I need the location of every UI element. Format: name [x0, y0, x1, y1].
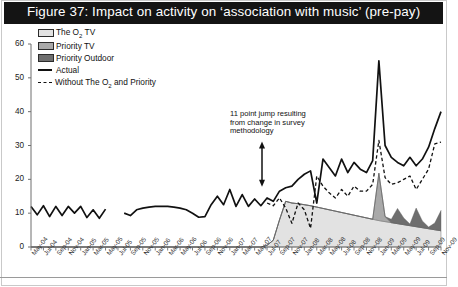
legend-swatch-without-o2-and-priority — [38, 82, 52, 83]
legend-item-priority-outdoor: Priority Outdoor — [38, 52, 156, 64]
y-axis-tick-label: 0 — [8, 242, 24, 251]
y-axis-tick-label: 40 — [8, 107, 24, 116]
figure-footer-rule — [0, 277, 447, 278]
legend-item-o2-tv: The O2 TV — [38, 27, 156, 39]
legend-label-without-o2-and-priority: Without The O2 and Priority — [55, 77, 156, 89]
legend-item-priority-tv: Priority TV — [38, 39, 156, 51]
y-axis-tick-label: 20 — [8, 174, 24, 183]
legend-swatch-priority-outdoor — [38, 54, 54, 62]
chart-annotation-text: 11 point jump resulting from change in s… — [230, 110, 316, 136]
legend-item-without-o2-and-priority: Without The O2 and Priority — [38, 77, 156, 89]
legend-label-priority-tv: Priority TV — [56, 41, 95, 51]
legend-swatch-o2-tv — [38, 29, 54, 37]
legend-swatch-priority-tv — [38, 42, 54, 50]
legend-item-actual: Actual — [38, 64, 156, 76]
legend-label-o2-tv: The O2 TV — [56, 27, 95, 39]
chart-legend: The O2 TV Priority TV Priority Outdoor A… — [38, 27, 156, 89]
y-axis-tick-label: 10 — [8, 208, 24, 217]
y-axis-tick-label: 60 — [8, 39, 24, 48]
legend-label-priority-outdoor: Priority Outdoor — [56, 53, 114, 63]
legend-swatch-actual — [38, 69, 52, 71]
legend-label-actual: Actual — [56, 65, 79, 75]
y-axis-tick-label: 50 — [8, 73, 24, 82]
annotation-arrow — [259, 142, 265, 187]
y-axis-tick-label: 30 — [8, 141, 24, 150]
